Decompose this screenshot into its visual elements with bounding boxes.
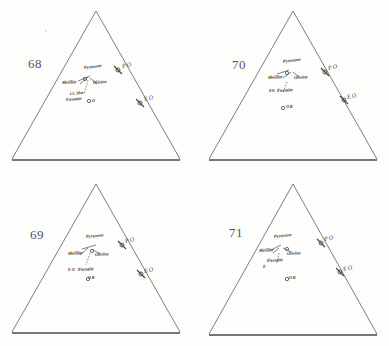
ternary-panel-70: 70 Pyroxene Melilite Olivine EO Fassaite… <box>195 0 389 173</box>
ternary-panel-71: 71 Pyroxene Melilite Olivine E Fassaite … <box>195 173 389 346</box>
figure-sheet: 68 Pyroxene Melilite Olivine CC.Mar Fass… <box>0 0 389 346</box>
triangle-right-edge <box>293 184 377 334</box>
label-fassaite: Fassaite <box>267 258 283 263</box>
panel-number-71: 71 <box>229 225 243 241</box>
label-olivine: Olivine <box>287 251 301 256</box>
label-fassaite-prefix: E <box>263 265 266 269</box>
label-open-circle-marker: O B <box>286 105 293 109</box>
leader-pyroxene <box>82 245 96 249</box>
label-melilite: Melilite <box>259 248 274 253</box>
label-melilite: Melilite <box>268 75 283 80</box>
panel-number-69: 69 <box>30 227 44 243</box>
edge-tick-bar-lower <box>136 99 144 107</box>
open-circle-marker <box>87 99 90 102</box>
label-melilite: Melilite <box>62 80 77 85</box>
label-olivine: Olivine <box>93 80 107 86</box>
triangle-right-edge <box>293 11 377 159</box>
label-melilite: Melilite <box>68 251 83 256</box>
label-fassaite-prefix: EO <box>269 89 275 93</box>
triangle-right-edge <box>96 184 180 332</box>
leader-fassaite <box>84 80 88 94</box>
ternary-triangle-68 <box>0 0 194 173</box>
ternary-panel-69: 69 Pyroxene Melilite Olivine E O Fassait… <box>0 173 194 346</box>
label-fassaite-prefix: E O <box>68 268 75 272</box>
open-circle-marker <box>281 106 284 109</box>
ternary-panel-68: 68 Pyroxene Melilite Olivine CC.Mar Fass… <box>0 0 194 173</box>
label-open-circle-marker: O B <box>289 276 296 280</box>
label-fassaite: Fassaite <box>277 88 293 93</box>
triangle-left-edge <box>12 11 96 159</box>
scan-artifact <box>45 30 47 32</box>
label-olivine: Olivine <box>294 75 308 80</box>
triangle-left-edge <box>209 11 293 159</box>
ternary-triangle-71 <box>195 173 389 346</box>
label-olivine: Olivine <box>95 252 109 257</box>
label-open-circle-marker: O B <box>88 276 95 280</box>
triangle-left-edge <box>12 184 96 332</box>
panel-number-68: 68 <box>28 56 42 72</box>
triangle-right-edge <box>96 11 180 159</box>
cluster-center-marker <box>285 71 288 74</box>
leader-fassaite <box>86 253 90 265</box>
edge-tick-bar-upper <box>114 66 122 74</box>
label-open-circle-marker: O <box>92 99 95 103</box>
panel-number-70: 70 <box>232 57 246 73</box>
cluster-center-marker <box>90 249 93 252</box>
label-fassaite: Fassaite <box>78 267 94 272</box>
ternary-triangle-69 <box>0 173 194 346</box>
